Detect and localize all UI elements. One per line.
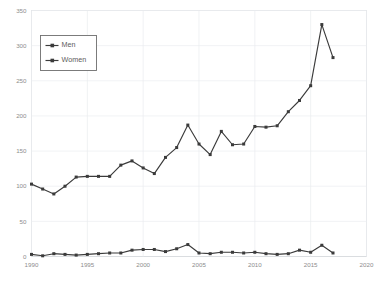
series-marker <box>186 243 189 246</box>
series-marker <box>30 183 33 186</box>
series-marker <box>175 247 178 250</box>
series-marker <box>242 251 245 254</box>
series-marker <box>97 252 100 255</box>
series-marker <box>220 130 223 133</box>
x-tick-label: 2005 <box>192 261 206 268</box>
series-marker <box>131 249 134 252</box>
series-marker <box>276 253 279 256</box>
series-marker <box>41 188 44 191</box>
x-tick-label: 2015 <box>304 261 318 268</box>
series-marker <box>175 146 178 149</box>
chart-container: 050100150200250300350 199019952000200520… <box>0 0 382 281</box>
series-marker <box>309 84 312 87</box>
series-marker <box>298 249 301 252</box>
series-marker <box>198 143 201 146</box>
series-marker <box>119 251 122 254</box>
series-marker <box>64 253 67 256</box>
series-marker <box>332 56 335 59</box>
line-chart: 050100150200250300350 199019952000200520… <box>0 0 382 281</box>
y-tick-label: 150 <box>16 147 27 154</box>
series-marker <box>265 252 268 255</box>
series-marker <box>320 244 323 247</box>
series-marker <box>276 124 279 127</box>
y-tick-label: 100 <box>16 182 27 189</box>
series-marker <box>164 156 167 159</box>
series-marker <box>75 176 78 179</box>
series-marker <box>64 185 67 188</box>
series-marker <box>209 252 212 255</box>
chart-legend: MenWomen <box>41 36 97 71</box>
series-marker <box>153 172 156 175</box>
series-marker <box>198 251 201 254</box>
series-marker <box>332 251 335 254</box>
series-marker <box>242 143 245 146</box>
y-tick-label: 50 <box>20 218 27 225</box>
x-tick-label: 1990 <box>25 261 39 268</box>
series-marker <box>265 126 268 129</box>
x-tick-label: 2020 <box>360 261 374 268</box>
series-marker <box>108 175 111 178</box>
series-marker <box>142 166 145 169</box>
y-tick-label: 0 <box>23 253 27 260</box>
series-marker <box>142 248 145 251</box>
x-tick-label: 1995 <box>80 261 94 268</box>
series-marker <box>231 143 234 146</box>
series-marker <box>52 192 55 195</box>
legend-swatch-marker <box>51 59 55 63</box>
series-marker <box>108 251 111 254</box>
series-marker <box>186 124 189 127</box>
series-marker <box>209 153 212 156</box>
series-marker <box>153 248 156 251</box>
series-marker <box>131 159 134 162</box>
y-tick-label: 350 <box>16 7 27 14</box>
y-tick-label: 200 <box>16 112 27 119</box>
series-marker <box>231 251 234 254</box>
series-marker <box>309 251 312 254</box>
x-tick-label: 2000 <box>136 261 150 268</box>
series-marker <box>298 99 301 102</box>
series-marker <box>320 23 323 26</box>
series-marker <box>52 252 55 255</box>
series-marker <box>164 250 167 253</box>
legend-swatch-marker <box>51 44 55 48</box>
series-marker <box>97 175 100 178</box>
legend-label: Men <box>62 40 76 49</box>
y-tick-label: 300 <box>16 42 27 49</box>
series-marker <box>253 125 256 128</box>
series-marker <box>287 252 290 255</box>
series-marker <box>287 110 290 113</box>
series-marker <box>86 253 89 256</box>
series-marker <box>41 254 44 257</box>
series-marker <box>253 251 256 254</box>
series-marker <box>119 164 122 167</box>
series-marker <box>30 253 33 256</box>
x-tick-label: 2010 <box>248 261 262 268</box>
series-marker <box>86 175 89 178</box>
legend-label: Women <box>62 55 87 64</box>
y-tick-label: 250 <box>16 77 27 84</box>
series-marker <box>220 251 223 254</box>
series-marker <box>75 254 78 257</box>
